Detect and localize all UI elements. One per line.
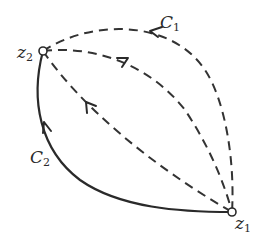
label-z2: z2 [16, 42, 33, 64]
label-z1: z1 [234, 213, 251, 235]
contour-diagram: z2 z1 C1 C2 [0, 0, 254, 235]
curve-middle [43, 50, 232, 212]
curve-c2 [38, 51, 232, 212]
curve-c1 [43, 29, 233, 212]
label-c1: C1 [160, 12, 180, 34]
curve-inner [43, 51, 232, 212]
point-z2 [39, 47, 47, 55]
label-c2: C2 [30, 147, 50, 169]
